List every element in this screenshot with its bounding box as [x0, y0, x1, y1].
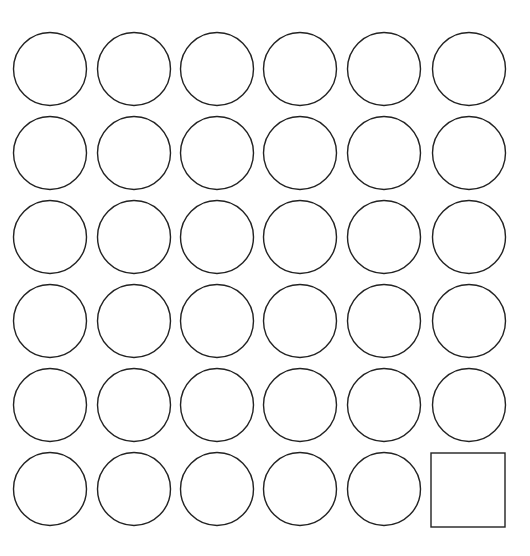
shape-grid-diagram: [0, 0, 530, 556]
background: [0, 0, 530, 556]
